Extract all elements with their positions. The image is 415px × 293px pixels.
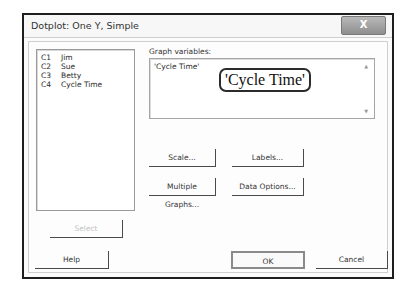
column-id: C2 <box>41 62 61 71</box>
list-item-c4[interactable]: C4Cycle Time <box>41 80 102 89</box>
graph-variables-label: Graph variables: <box>149 47 211 56</box>
variables-listbox[interactable]: C1Jim C2Sue C3Betty C4Cycle Time <box>36 49 135 211</box>
dialog-title: Dotplot: One Y, Simple <box>31 20 139 31</box>
scale-button[interactable]: Scale... <box>149 149 216 167</box>
close-button[interactable]: X <box>341 16 386 35</box>
list-item-c3[interactable]: C3Betty <box>41 71 81 80</box>
labels-button[interactable]: Labels... <box>232 149 304 167</box>
multiple-graphs-button[interactable]: Multiple Graphs... <box>149 178 216 196</box>
data-options-button[interactable]: Data Options... <box>232 178 304 196</box>
list-item-c2[interactable]: C2Sue <box>41 62 75 71</box>
scroll-up-icon[interactable]: ▲ <box>364 63 368 69</box>
list-item-c1[interactable]: C1Jim <box>41 53 73 62</box>
scroll-down-icon[interactable]: ▼ <box>364 108 368 114</box>
graph-variables-value: 'Cycle Time' <box>154 62 199 71</box>
dialog-body: C1Jim C2Sue C3Betty C4Cycle Time Graph v… <box>28 41 388 273</box>
annotation-callout: 'Cycle Time' <box>219 68 311 92</box>
column-name: Jim <box>61 53 73 62</box>
select-button[interactable]: Select <box>50 220 123 238</box>
column-name: Betty <box>61 71 81 80</box>
title-bar[interactable]: Dotplot: One Y, Simple X <box>24 15 392 38</box>
column-id: C4 <box>41 80 61 89</box>
column-name: Sue <box>61 62 75 71</box>
graph-variables-input[interactable]: 'Cycle Time' 'Cycle Time' ▲ ▼ <box>149 58 375 119</box>
column-id: C3 <box>41 71 61 80</box>
column-id: C1 <box>41 53 61 62</box>
dotplot-dialog: Dotplot: One Y, Simple X C1Jim C2Sue C3B… <box>22 13 394 279</box>
ok-button[interactable]: OK <box>231 251 305 269</box>
help-button[interactable]: Help <box>35 251 109 269</box>
column-name: Cycle Time <box>61 80 102 89</box>
close-icon: X <box>360 19 368 30</box>
cancel-button[interactable]: Cancel <box>316 251 388 269</box>
